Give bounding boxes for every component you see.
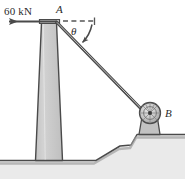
force-label: 60 kN [4,6,32,17]
figure-canvas [0,0,185,179]
tower-column [36,23,63,161]
point-a-label: A [56,4,63,15]
point-b-label: B [165,108,172,119]
dashed-reference-line [63,18,95,26]
statics-figure: 60 kN A θ B [0,0,185,179]
pulley-wheel [140,103,161,124]
angle-theta-label: θ [71,26,76,37]
angle-arc-theta [83,25,93,43]
ground-profile [0,135,185,180]
